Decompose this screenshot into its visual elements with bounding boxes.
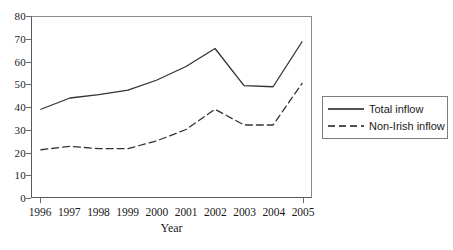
legend-item-non-irish-inflow: Non-Irish inflow <box>328 119 441 133</box>
plot-area <box>31 16 312 198</box>
chart-legend: Total inflow Non-Irish inflow <box>322 96 448 139</box>
y-tick-label: 50 <box>0 79 26 90</box>
y-axis-tick-labels: 01020304050607080 <box>0 16 26 198</box>
legend-item-total-inflow: Total inflow <box>328 102 441 116</box>
legend-dashed-line-icon <box>328 121 364 131</box>
y-tick-label: 40 <box>0 102 26 113</box>
series-layer <box>32 17 311 197</box>
y-tick-label: 60 <box>0 57 26 68</box>
y-tick-label: 70 <box>0 34 26 45</box>
y-tick-label: 10 <box>0 170 26 181</box>
legend-solid-line-icon <box>328 104 364 114</box>
line-chart-figure: 01020304050607080 1996199719981999200020… <box>0 0 453 250</box>
y-tick-label: 80 <box>0 11 26 22</box>
y-tick-label: 0 <box>0 193 26 204</box>
x-axis-tick-marks <box>31 198 312 203</box>
x-tick-mark <box>303 198 304 203</box>
x-axis-title: Year <box>31 221 312 235</box>
x-tick-label: 2005 <box>283 205 323 219</box>
y-tick-label: 30 <box>0 125 26 136</box>
x-tick-mark <box>40 198 41 203</box>
series-line-non-irish-inflow <box>41 83 302 149</box>
series-line-total-inflow <box>41 42 302 110</box>
legend-label-non-irish-inflow: Non-Irish inflow <box>369 120 445 132</box>
x-axis-tick-labels: 1996199719981999200020012002200320042005 <box>0 205 340 221</box>
legend-label-total-inflow: Total inflow <box>369 103 423 115</box>
y-tick-label: 20 <box>0 148 26 159</box>
